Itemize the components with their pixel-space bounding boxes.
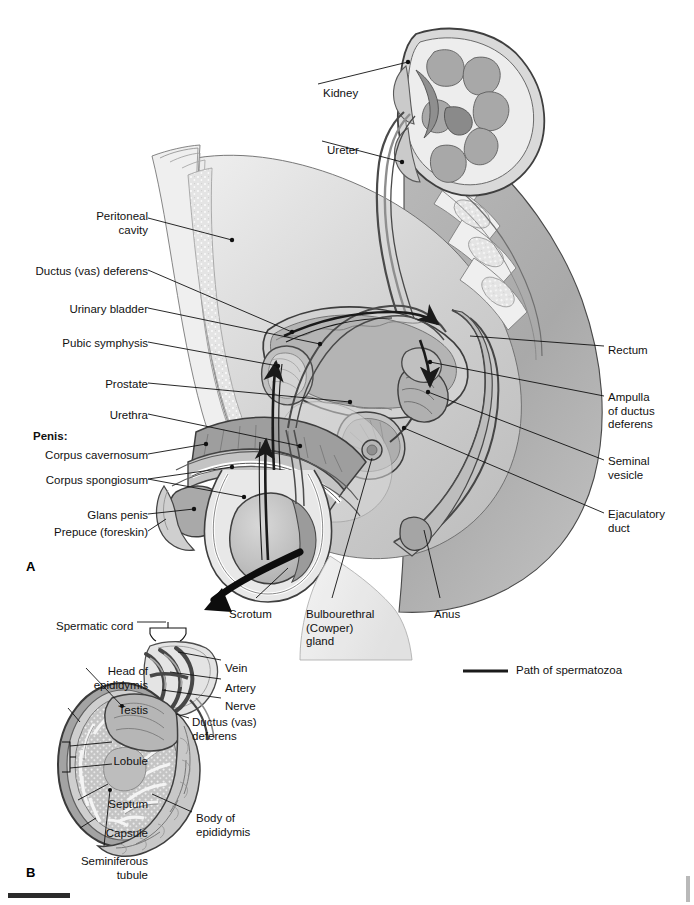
panel-letter-b: B [26,865,35,880]
label-rectum: Rectum [608,344,648,358]
legend-label: Path of spermatozoa [516,664,622,676]
label-ureter: Ureter [327,144,359,158]
label-seminal-vesicle: Seminal vesicle [608,455,650,482]
label-seminiferous-tubule: Seminiferous tubule [30,855,148,882]
label-artery: Artery [225,682,256,696]
label-ampulla-of-ductus-deferens: Ampulla of ductus deferens [608,391,655,432]
label-ductus-vas-deferens-b: Ductus (vas) deferens [192,716,257,743]
label-prepuce-foreskin: Prepuce (foreskin) [32,526,148,540]
label-corpus-cavernosum: Corpus cavernosum [26,449,148,463]
label-ejaculatory-duct: Ejaculatory duct [608,508,665,535]
label-body-of-epididymis: Body of epididymis [196,812,250,839]
label-spermatic-cord: Spermatic cord [56,620,133,634]
label-scrotum: Scrotum [229,608,272,622]
label-urinary-bladder: Urinary bladder [57,303,148,317]
label-penis-heading: Penis: [33,430,68,444]
label-testis: Testis [22,704,148,718]
label-bulbourethral-cowper-gland: Bulbourethral (Cowper) gland [306,608,374,649]
bottom-left-bar [8,893,70,898]
label-capsule: Capsule [25,827,148,841]
panel-a-illustration [148,29,604,660]
label-anus: Anus [434,608,460,622]
anus [400,517,431,550]
label-head-of-epididymis: Head of epididymis [35,665,148,692]
label-lobule: Lobule [21,755,148,769]
label-pubic-symphysis: Pubic symphysis [49,337,148,351]
label-vein: Vein [225,662,247,676]
label-septum: Septum [23,798,148,812]
label-peritoneal-cavity: Peritoneal cavity [85,210,148,237]
label-prostate: Prostate [92,378,148,392]
label-glans-penis: Glans penis [76,509,148,523]
label-ductus-vas-deferens: Ductus (vas) deferens [18,265,148,279]
label-nerve: Nerve [225,700,256,714]
label-kidney: Kidney [323,87,358,101]
panel-letter-a: A [26,559,35,574]
bottom-right-bar [686,876,690,902]
label-urethra: Urethra [99,409,148,423]
kidney-organ [394,29,545,196]
label-corpus-spongiosum: Corpus spongiosum [26,474,148,488]
